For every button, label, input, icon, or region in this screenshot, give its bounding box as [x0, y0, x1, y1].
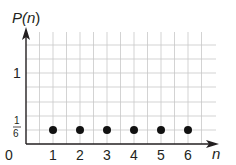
point-n5	[157, 126, 165, 134]
x-tick-1: 1	[49, 147, 57, 163]
x-tick-3: 3	[103, 147, 111, 163]
origin-label: 0	[5, 147, 13, 163]
x-axis-label: n	[212, 145, 220, 162]
point-n1	[49, 126, 57, 134]
x-tick-2: 2	[76, 147, 84, 163]
point-n4	[130, 126, 138, 134]
y-tick-frac-num: 1	[14, 115, 20, 126]
point-n2	[76, 126, 84, 134]
y-axis-label: P(n)	[12, 9, 40, 26]
point-n6	[184, 126, 192, 134]
point-n3	[103, 126, 111, 134]
probability-chart: P(n) 1 1 6 0 1 2 3 4 5 6 n	[0, 0, 236, 165]
x-tick-4: 4	[130, 147, 138, 163]
x-tick-6: 6	[184, 147, 192, 163]
y-tick-frac-den: 6	[13, 128, 19, 139]
y-tick-1: 1	[13, 65, 21, 81]
x-tick-5: 5	[157, 147, 165, 163]
